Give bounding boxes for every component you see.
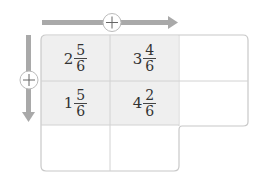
numerator: 5 xyxy=(76,88,85,103)
numerator: 5 xyxy=(76,43,85,58)
blank-cell-bottom-2[interactable] xyxy=(110,125,179,171)
numerator: 4 xyxy=(145,43,154,58)
cell-r1c1: 2 56 xyxy=(41,36,110,81)
cell-r2c2: 4 26 xyxy=(110,81,179,125)
cell-r2c1: 1 56 xyxy=(41,81,110,125)
cell-r1c2: 3 46 xyxy=(110,36,179,81)
whole-part: 3 xyxy=(133,50,143,68)
numerator: 2 xyxy=(145,88,154,103)
denominator: 6 xyxy=(76,104,85,119)
vertical-arrowhead-icon xyxy=(22,112,35,122)
denominator: 6 xyxy=(145,59,154,74)
blank-cell-right-1[interactable] xyxy=(179,36,248,81)
denominator: 6 xyxy=(76,59,85,74)
horizontal-arrowhead-icon xyxy=(168,16,178,29)
blank-cell-right-2[interactable] xyxy=(179,81,248,125)
whole-part: 1 xyxy=(64,94,74,112)
blank-cell-bottom-1[interactable] xyxy=(41,125,110,171)
denominator: 6 xyxy=(145,104,154,119)
whole-part: 2 xyxy=(64,50,74,68)
whole-part: 4 xyxy=(133,94,143,112)
